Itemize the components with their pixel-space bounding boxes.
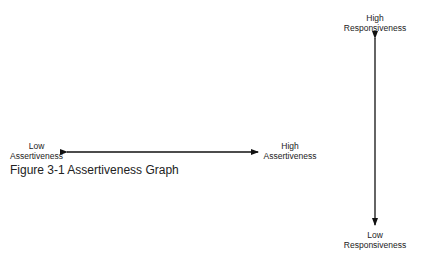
low-assertiveness-line2: Assertiveness <box>9 151 64 161</box>
high-responsiveness-line1: High <box>340 13 410 23</box>
high-assertiveness-line2: Assertiveness <box>260 151 320 161</box>
low-assertiveness-label: Low Assertiveness <box>9 141 64 161</box>
high-responsiveness-line2: Responsiveness <box>340 23 410 33</box>
high-responsiveness-label: High Responsiveness <box>340 13 410 33</box>
low-responsiveness-line2: Responsiveness <box>340 240 410 250</box>
low-assertiveness-line1: Low <box>9 141 64 151</box>
low-responsiveness-line1: Low <box>340 230 410 240</box>
low-responsiveness-label: Low Responsiveness <box>340 230 410 250</box>
high-assertiveness-label: High Assertiveness <box>260 141 320 161</box>
axes-diagram <box>0 0 421 255</box>
figure-caption: Figure 3-1 Assertiveness Graph <box>10 163 179 177</box>
high-assertiveness-line1: High <box>260 141 320 151</box>
